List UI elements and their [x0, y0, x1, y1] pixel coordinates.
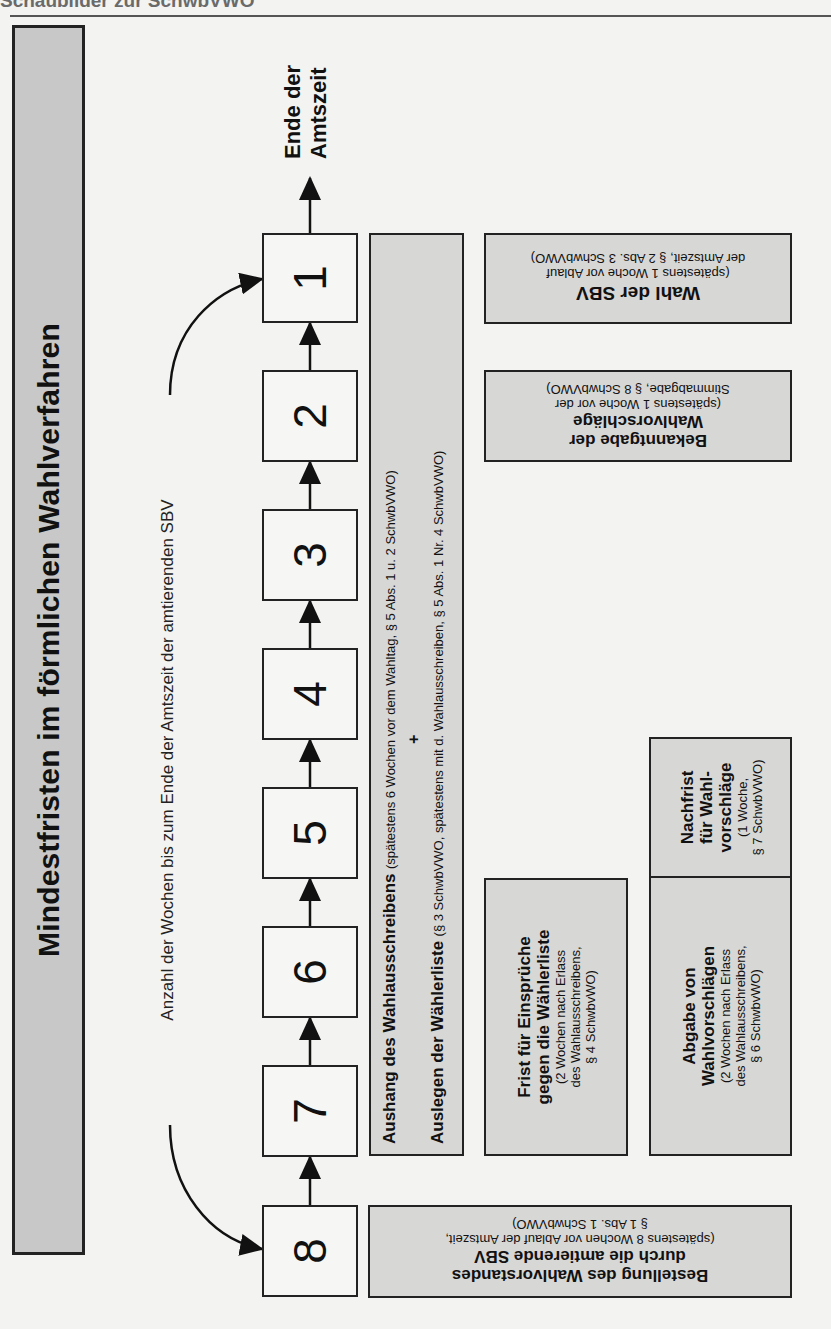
- wahl-ref1: (spätestens 1 Woche vor Ablauf: [546, 267, 729, 282]
- week-number: 7: [283, 1098, 337, 1124]
- nachfrist-ref1: (1 Woche,: [734, 778, 749, 837]
- frist-ref1: (2 Wochen nach Erlass: [553, 950, 568, 1084]
- bestellung-ref2: § 1 Abs. 1 SchwbVWO): [512, 1218, 648, 1233]
- end-label-line2: Amtszeit: [306, 29, 332, 159]
- week-number: 3: [283, 542, 337, 568]
- wahl-ref2: der Amtszeit, § 2 Abs. 3 SchwbVWO): [531, 252, 746, 267]
- wahl-box: Wahl der SBV (spätestens 1 Woche vor Abl…: [484, 233, 792, 324]
- end-of-term-label: Ende der Amtszeit: [280, 29, 332, 159]
- week-number: 1: [283, 265, 337, 291]
- abgabe-title1: Abgabe von: [679, 967, 698, 1064]
- week-box-2: 2: [262, 370, 358, 462]
- bekanntgabe-title1: Bekanntgabe der: [569, 431, 707, 450]
- bekanntgabe-ref2: Stimmabgabe, § 8 SchwbVWO): [546, 382, 730, 397]
- nachfrist-title1: Nachfrist: [677, 771, 696, 845]
- week-box-8: 8: [262, 1205, 358, 1297]
- bekanntgabe-ref1: (spätestens 1 Woche vor der: [555, 397, 721, 412]
- end-label-line1: Ende der: [280, 29, 306, 159]
- frist-ref2: des Wahlausschreibens,: [568, 946, 583, 1087]
- abgabe-ref2: des Wahlausschreibens,: [732, 945, 747, 1086]
- plus-sign: +: [406, 735, 422, 744]
- week-box-1: 1: [262, 233, 358, 323]
- bestellung-box: Bestellung des Wahlvorstandes durch die …: [368, 1205, 792, 1298]
- week-box-7: 7: [262, 1065, 358, 1157]
- nachfrist-ref2: § 7 SchwbVWO): [749, 759, 764, 855]
- frist-ref3: § 4 SchwbvWO): [583, 970, 598, 1064]
- week-number: 4: [283, 681, 337, 707]
- bestellung-subtitle: durch die amtierende SBV: [474, 1248, 686, 1267]
- frist-title1: Frist für Einsprüche: [515, 936, 534, 1098]
- aushang-title: Aushang des Wahlausschreibens: [380, 874, 399, 1145]
- week-number: 2: [283, 403, 337, 429]
- nachfrist-title3: vorschläge: [715, 763, 734, 853]
- frist-box: Frist für Einsprüche gegen die Wählerlis…: [484, 878, 628, 1156]
- week-box-5: 5: [262, 787, 358, 879]
- bekanntgabe-box: Bekanntgabe der Wahlvorschläge (späteste…: [484, 370, 792, 462]
- frist-title2: gegen die Wählerliste: [534, 930, 553, 1105]
- abgabe-box: Abgabe von Wahlvorschlägen (2 Wochen nac…: [649, 876, 792, 1156]
- week-box-6: 6: [262, 926, 358, 1018]
- abgabe-ref3: § 6 SchwbvWO): [747, 969, 762, 1063]
- aushang-line: Aushang des Wahlausschreibens (spätesten…: [380, 470, 400, 1144]
- nachfrist-title2: für Wahl-: [696, 771, 715, 844]
- week-number: 5: [283, 820, 337, 846]
- weeks-annotation: Anzahl der Wochen bis zum Ende der Amtsz…: [158, 410, 178, 1110]
- abgabe-ref1: (2 Wochen nach Erlass: [717, 949, 732, 1083]
- auslegen-ref: (§ 3 SchwbVWO, spätestens mit d. Wahlaus…: [431, 451, 446, 937]
- week-box-3: 3: [262, 509, 358, 601]
- bestellung-ref1: (spätestens 8 Wochen vor Ablauf der Amts…: [445, 1233, 714, 1248]
- abgabe-title2: Wahlvorschlägen: [698, 946, 717, 1086]
- auslegen-line: Auslegen der Wählerliste (§ 3 SchwbVWO, …: [428, 451, 448, 1144]
- aushang-content: Aushang des Wahlausschreibens (spätesten…: [374, 233, 464, 1144]
- auslegen-title: Auslegen der Wählerliste: [428, 941, 447, 1144]
- wahl-title: Wahl der SBV: [576, 282, 700, 306]
- bekanntgabe-title2: Wahlvorschläge: [573, 412, 703, 431]
- week-number: 8: [283, 1238, 337, 1264]
- aushang-ref: (spätestens 6 Wochen vor dem Wahltag, § …: [383, 470, 398, 869]
- week-number: 6: [283, 959, 337, 985]
- nachfrist-box: Nachfrist für Wahl- vorschläge (1 Woche,…: [649, 737, 792, 878]
- weeks-annotation-text: Anzahl der Wochen bis zum Ende der Amtsz…: [158, 499, 177, 1020]
- diagram-canvas: Mindestfristen im förmlichen Wahlverfahr…: [0, 0, 831, 1329]
- bestellung-title: Bestellung des Wahlvorstandes: [452, 1267, 708, 1286]
- week-box-4: 4: [262, 648, 358, 740]
